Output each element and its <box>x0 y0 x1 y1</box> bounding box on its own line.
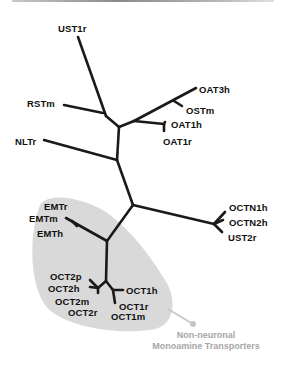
leaf-label-OCT2r: OCT2r <box>68 308 98 318</box>
branch-oat1-stem <box>134 121 164 124</box>
branch-rstm <box>64 105 103 113</box>
leaf-label-EMTm: EMTm <box>29 214 58 224</box>
node-upper <box>106 116 119 127</box>
group-caption: Non-neuronal Monoamine Transporters <box>136 330 276 352</box>
leaf-label-OCT2h: OCT2h <box>48 284 80 294</box>
leaf-label-EMTr: EMTr <box>44 202 68 212</box>
branch-ostm <box>174 101 182 106</box>
group-caption-line-2: Monoamine Transporters <box>136 341 276 352</box>
leaf-label-OCT2p: OCT2p <box>50 272 82 282</box>
leaf-label-OSTm: OSTm <box>186 106 214 116</box>
leaf-label-EMTh: EMTh <box>37 229 63 239</box>
leaf-label-RSTm: RSTm <box>27 99 55 109</box>
branch-nltr <box>44 140 117 160</box>
leaf-label-OCTN1h: OCTN1h <box>229 203 268 213</box>
trunk-lower <box>117 160 133 205</box>
branch-oat-stem <box>119 121 134 127</box>
branch-octn-stem <box>133 205 214 224</box>
leaf-label-OCTN2h: OCTN2h <box>229 218 268 228</box>
branch-ust2r <box>214 224 222 232</box>
trunk-oct <box>106 241 107 281</box>
branch-octn2h <box>214 220 223 224</box>
leaf-label-NLTr: NLTr <box>15 137 36 147</box>
group-caption-line-1: Non-neuronal <box>136 330 276 341</box>
leaf-label-UST1r: UST1r <box>58 24 86 34</box>
leaf-label-OAT1r: OAT1r <box>163 137 192 147</box>
leaf-label-OCT2m: OCT2m <box>55 297 89 307</box>
leaf-label-OAT1h: OAT1h <box>171 120 202 130</box>
leaf-label-OCT1m: OCT1m <box>111 312 145 322</box>
group-caption-leader <box>168 309 196 327</box>
leaf-label-OAT3h: OAT3h <box>199 85 230 95</box>
trunk-ust1r <box>78 37 106 116</box>
leaf-label-UST2r: UST2r <box>228 233 256 243</box>
trunk-mid <box>117 127 119 160</box>
leaf-label-OCT1h: OCT1h <box>126 286 158 296</box>
